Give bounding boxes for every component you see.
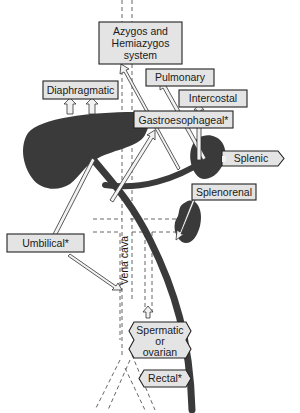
intercostal-label: Intercostal: [189, 92, 237, 104]
splenorenal-box: Splenorenal: [192, 184, 256, 200]
vena-cava-label: Vena cava: [118, 236, 130, 285]
gastroesophageal-label: Gastroesophageal*: [139, 114, 229, 126]
splenorenal-label: Splenorenal: [196, 186, 252, 198]
azygos-label-1: Azygos and: [113, 25, 168, 37]
pulmonary-label: Pulmonary: [155, 71, 206, 83]
intercostal-box: Intercostal: [179, 90, 247, 107]
diaphragmatic-box: Diaphragmatic: [43, 81, 118, 99]
azygos-box: Azygos and Hemiazygos system: [99, 22, 182, 64]
azygos-label-3: system: [124, 49, 158, 61]
umbilical-box: Umbilical*: [7, 234, 84, 252]
azygos-label-2: Hemiazygos: [112, 37, 170, 49]
splenic-vein: [105, 160, 205, 186]
splenic-label: Splenic: [234, 152, 268, 164]
splenic-box: Splenic: [222, 151, 284, 166]
rectal-label: Rectal*: [148, 372, 182, 384]
rectal-box: Rectal*: [139, 370, 191, 387]
spermatic-ovarian-box: Spermatic or ovarian: [129, 322, 191, 358]
diaphragmatic-label: Diaphragmatic: [47, 84, 115, 96]
pulmonary-box: Pulmonary: [146, 69, 214, 86]
portosystemic-collaterals-diagram: Azygos and Hemiazygos system Diaphragmat…: [0, 0, 300, 413]
umbilical-label: Umbilical*: [22, 237, 69, 249]
spermatic-label-3: ovarian: [143, 346, 178, 358]
gastroesophageal-box: Gastroesophageal*: [134, 111, 233, 128]
